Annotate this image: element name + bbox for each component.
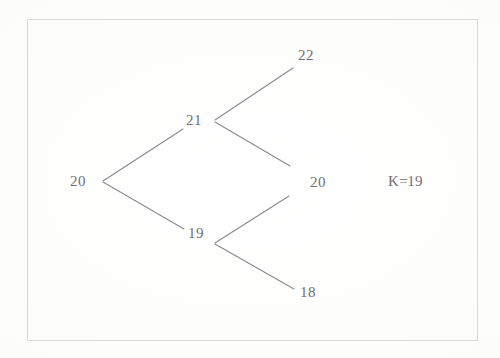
strike-prefix: K	[388, 173, 399, 189]
node-upup-22: 22	[298, 48, 314, 63]
edge-up-to-upup	[215, 68, 293, 120]
strike-equals-sign: =	[399, 173, 407, 189]
node-downdown-18: 18	[300, 285, 316, 300]
diagram-canvas: 20 21 19 22 20 18 K=19	[0, 0, 500, 358]
strike-annotation: K=19	[388, 174, 423, 189]
node-down-19: 19	[188, 226, 204, 241]
edge-root-to-down	[103, 182, 184, 229]
edge-down-to-downdown	[215, 244, 294, 289]
strike-value: 19	[407, 173, 423, 189]
edge-up-to-middle	[215, 122, 290, 166]
node-root-20: 20	[70, 174, 86, 189]
node-up-21: 21	[186, 113, 202, 128]
node-middle-20: 20	[310, 175, 326, 190]
edge-root-to-up	[103, 129, 183, 181]
edge-down-to-middle	[215, 196, 289, 243]
